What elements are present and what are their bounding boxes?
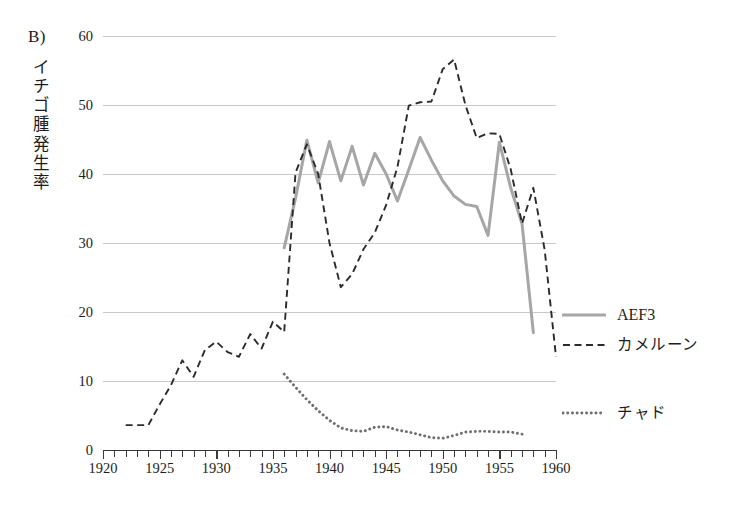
x-tick-major bbox=[216, 450, 217, 459]
x-tick-minor bbox=[511, 450, 512, 457]
legend-swatch-icon bbox=[562, 339, 606, 351]
series-line bbox=[284, 137, 533, 332]
legend-swatch-icon bbox=[562, 309, 606, 321]
legend-item[interactable]: カメルーン bbox=[562, 335, 699, 355]
x-tick-minor bbox=[409, 450, 410, 457]
x-tick-minor bbox=[284, 450, 285, 457]
x-tick-minor bbox=[522, 450, 523, 457]
y-tick-label: 30 bbox=[59, 236, 93, 251]
x-tick-label: 1945 bbox=[356, 461, 416, 476]
series-line bbox=[284, 374, 522, 438]
x-tick-minor bbox=[194, 450, 195, 457]
legend-label: AEF3 bbox=[617, 307, 655, 323]
series-layer bbox=[103, 36, 556, 450]
x-tick-minor bbox=[352, 450, 353, 457]
y-axis-title-char: 率 bbox=[30, 173, 52, 192]
x-tick-major bbox=[273, 450, 274, 459]
y-axis-title-char: イ bbox=[30, 58, 52, 77]
legend-label: カメルーン bbox=[617, 337, 699, 353]
y-axis-title-char: 腫 bbox=[30, 115, 52, 134]
legend-label: チャド bbox=[617, 405, 667, 421]
x-tick-label: 1950 bbox=[413, 461, 473, 476]
x-tick-minor bbox=[182, 450, 183, 457]
x-tick-minor bbox=[318, 450, 319, 457]
x-tick-minor bbox=[431, 450, 432, 457]
x-tick-minor bbox=[205, 450, 206, 457]
x-tick-major bbox=[386, 450, 387, 459]
y-tick-label: 20 bbox=[59, 305, 93, 320]
x-tick-minor bbox=[454, 450, 455, 457]
y-tick-label: 60 bbox=[59, 29, 93, 44]
x-tick-minor bbox=[420, 450, 421, 457]
y-tick-label: 0 bbox=[59, 443, 93, 458]
x-tick-minor bbox=[375, 450, 376, 457]
y-axis-title-char: チ bbox=[30, 77, 52, 96]
x-tick-minor bbox=[114, 450, 115, 457]
x-tick-minor bbox=[488, 450, 489, 457]
x-tick-minor bbox=[148, 450, 149, 457]
chart-figure: B) イチゴ腫発生率 AEF3カメルーンチャド 0102030405060192… bbox=[0, 0, 740, 514]
x-tick-major bbox=[499, 450, 500, 459]
panel-label: B) bbox=[28, 28, 46, 45]
y-tick-label: 50 bbox=[59, 98, 93, 113]
x-tick-minor bbox=[262, 450, 263, 457]
x-tick-minor bbox=[341, 450, 342, 457]
plot-area bbox=[103, 36, 556, 450]
x-tick-major bbox=[103, 450, 104, 459]
y-axis-title-char: ゴ bbox=[30, 96, 52, 115]
x-tick-minor bbox=[397, 450, 398, 457]
x-tick-major bbox=[330, 450, 331, 459]
x-tick-minor bbox=[545, 450, 546, 457]
x-tick-minor bbox=[533, 450, 534, 457]
x-tick-minor bbox=[228, 450, 229, 457]
x-tick-minor bbox=[250, 450, 251, 457]
y-tick-label: 10 bbox=[59, 374, 93, 389]
x-tick-label: 1955 bbox=[469, 461, 529, 476]
y-tick-label: 40 bbox=[59, 167, 93, 182]
x-tick-label: 1935 bbox=[243, 461, 303, 476]
x-tick-major bbox=[556, 450, 557, 459]
x-tick-label: 1925 bbox=[130, 461, 190, 476]
y-axis-title: イチゴ腫発生率 bbox=[30, 58, 52, 192]
x-tick-minor bbox=[137, 450, 138, 457]
x-tick-minor bbox=[239, 450, 240, 457]
series-line bbox=[126, 59, 556, 425]
legend-item[interactable]: チャド bbox=[562, 403, 667, 423]
x-tick-minor bbox=[307, 450, 308, 457]
x-tick-minor bbox=[296, 450, 297, 457]
x-tick-minor bbox=[363, 450, 364, 457]
x-tick-minor bbox=[465, 450, 466, 457]
x-tick-label: 1940 bbox=[300, 461, 360, 476]
legend-item[interactable]: AEF3 bbox=[562, 305, 655, 325]
y-axis-title-char: 発 bbox=[30, 135, 52, 154]
x-tick-minor bbox=[126, 450, 127, 457]
x-tick-label: 1920 bbox=[73, 461, 133, 476]
x-tick-major bbox=[443, 450, 444, 459]
x-tick-major bbox=[160, 450, 161, 459]
x-tick-label: 1960 bbox=[526, 461, 586, 476]
x-tick-label: 1930 bbox=[186, 461, 246, 476]
x-tick-minor bbox=[171, 450, 172, 457]
y-axis-title-char: 生 bbox=[30, 154, 52, 173]
legend-swatch-icon bbox=[562, 407, 606, 419]
x-tick-minor bbox=[477, 450, 478, 457]
